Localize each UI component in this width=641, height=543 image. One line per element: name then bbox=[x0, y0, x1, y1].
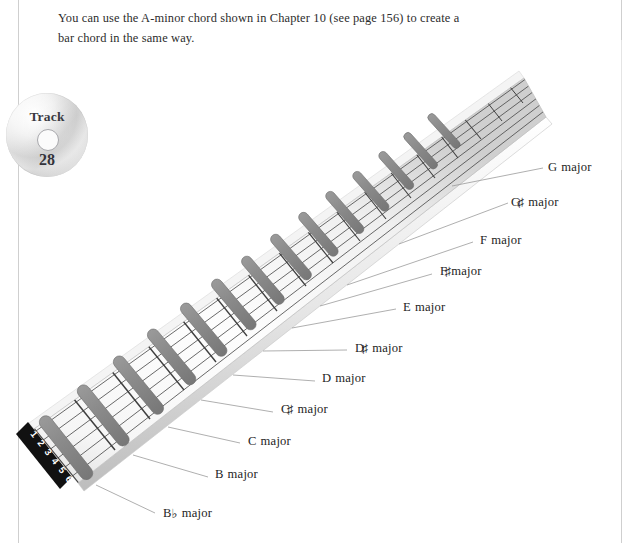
chord-label-e-major: Emajor bbox=[403, 300, 445, 315]
chord-quality-fs: major bbox=[451, 264, 481, 278]
chord-root-c: C bbox=[248, 434, 257, 448]
chord-label-gs-major: G♯major bbox=[511, 195, 559, 210]
chord-quality-b: major bbox=[228, 467, 258, 481]
chord-quality-e: major bbox=[415, 300, 445, 314]
chord-quality-c: major bbox=[261, 434, 291, 448]
sharp-sign-icon-fs: ♯ bbox=[445, 265, 452, 279]
leader-line-ds-major bbox=[263, 350, 347, 351]
leader-line-d-major bbox=[233, 375, 315, 381]
chord-quality-cs: major bbox=[298, 402, 328, 416]
chord-root-d: D bbox=[322, 371, 331, 385]
flat-sign-icon-bb: ♭ bbox=[172, 507, 178, 521]
chord-label-c-major: Cmajor bbox=[248, 434, 291, 449]
leader-line-c-major bbox=[168, 427, 240, 443]
leader-line-bb-major bbox=[96, 485, 155, 513]
chord-quality-d: major bbox=[335, 371, 365, 385]
chord-label-bb-major: B♭major bbox=[163, 505, 212, 521]
fretboard-lower-edge bbox=[78, 117, 552, 491]
chord-root-b: B bbox=[215, 467, 224, 481]
chord-quality-ds: major bbox=[372, 341, 402, 355]
guitar-neck-bar-chord-diagram: 1 2 3 4 5 6 bbox=[0, 0, 641, 543]
chord-root-bb: B bbox=[163, 506, 172, 520]
sharp-sign-icon-cs: ♯ bbox=[287, 403, 294, 417]
chord-label-fs-major: F♯major bbox=[440, 264, 482, 279]
chord-quality-gs: major bbox=[528, 195, 558, 209]
string-6 bbox=[72, 112, 543, 477]
chord-label-g-major: Gmajor bbox=[548, 160, 592, 175]
sharp-sign-icon-ds: ♯ bbox=[362, 342, 369, 356]
chord-root-f: F bbox=[480, 233, 487, 247]
chord-root-e: E bbox=[403, 300, 411, 314]
chord-quality-f: major bbox=[491, 233, 521, 247]
chord-label-d-major: Dmajor bbox=[322, 371, 366, 386]
chord-label-cs-major: C♯major bbox=[281, 402, 328, 417]
chord-label-b-major: Bmajor bbox=[215, 467, 258, 482]
chord-quality-bb: major bbox=[182, 506, 212, 520]
neck-end-fade bbox=[498, 40, 641, 170]
chord-root-g: G bbox=[548, 160, 557, 174]
chord-label-f-major: Fmajor bbox=[480, 233, 522, 248]
fretboard-svg: 1 2 3 4 5 6 bbox=[0, 0, 641, 543]
sharp-sign-icon-gs: ♯ bbox=[518, 196, 525, 210]
chord-label-ds-major: D♯major bbox=[355, 341, 403, 356]
chord-quality-g: major bbox=[561, 160, 591, 174]
leader-line-cs-major bbox=[201, 400, 273, 412]
leader-line-b-major bbox=[133, 455, 208, 477]
